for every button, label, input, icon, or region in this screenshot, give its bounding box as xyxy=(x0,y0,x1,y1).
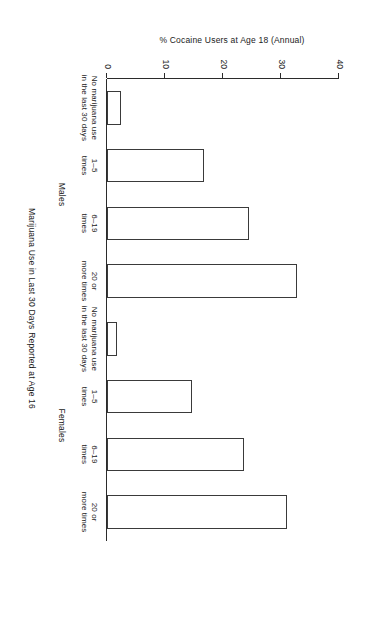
group-label: Males xyxy=(57,183,67,207)
bar xyxy=(107,149,204,182)
value-axis-tick-label: 40 xyxy=(334,49,345,69)
value-axis-tick-label: 10 xyxy=(160,49,171,69)
bar xyxy=(107,322,117,355)
bar xyxy=(107,91,122,124)
bar xyxy=(107,264,297,297)
bar xyxy=(107,207,249,240)
value-axis-tick xyxy=(338,73,339,78)
value-axis-title-rotated: % Cocaine Users at Age 18 (Annual) xyxy=(112,35,352,45)
value-axis-tick-label: 20 xyxy=(218,49,229,69)
bar-chart-figure: No marijuana use in the last 30 days1–5 … xyxy=(0,0,367,617)
value-axis-spine xyxy=(107,78,339,79)
figure-rotation-wrapper: No marijuana use in the last 30 days1–5 … xyxy=(0,0,367,617)
category-axis-title: Marijuana Use in Last 30 Days Reported a… xyxy=(27,0,37,617)
value-axis-tick xyxy=(164,73,165,78)
bar xyxy=(107,380,192,413)
value-axis-tick-label: 30 xyxy=(276,49,287,69)
category-axis-line xyxy=(106,79,107,541)
bar xyxy=(107,495,287,528)
group-label: Females xyxy=(57,409,67,443)
value-axis-tick-label: 0 xyxy=(102,49,113,69)
value-axis-tick xyxy=(280,73,281,78)
value-axis-tick xyxy=(106,73,107,78)
plot-area xyxy=(107,79,339,541)
value-axis-tick xyxy=(222,73,223,78)
bar xyxy=(107,438,244,471)
category-tick-label: 20 or more times xyxy=(80,470,99,554)
